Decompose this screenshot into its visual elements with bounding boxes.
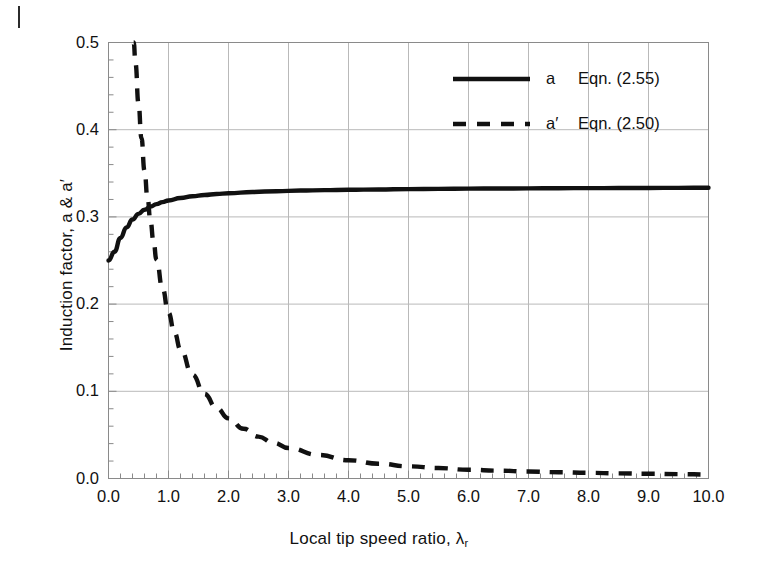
x-tick-label: 3.0 — [259, 487, 319, 506]
x-tick-label: 2.0 — [199, 487, 259, 506]
x-tick-label: 10.0 — [679, 487, 739, 506]
figure-container: 0.01.02.03.04.05.06.07.08.09.010.0 0.00.… — [0, 0, 758, 572]
x-tick-label: 7.0 — [499, 487, 559, 506]
gridlines — [109, 43, 709, 479]
legend-swatches — [453, 79, 530, 124]
y-axis-title-text: Induction factor, a & a′ — [57, 179, 76, 351]
series-a-prime-line — [134, 43, 709, 475]
x-tick-label: 1.0 — [139, 487, 199, 506]
x-axis-title: Local tip speed ratio, λr — [0, 529, 758, 549]
x-tick-label: 0.0 — [79, 487, 139, 506]
y-axis-title: Induction factor, a & a′ — [57, 55, 77, 475]
y-tick-label: 0.5 — [39, 33, 99, 52]
x-tick-label: 9.0 — [619, 487, 679, 506]
legend-item-0-symbol: a — [546, 69, 555, 88]
x-tick-label: 5.0 — [379, 487, 439, 506]
x-axis-title-text: Local tip speed ratio, λ — [290, 529, 465, 548]
legend-item-1-symbol: a′ — [546, 114, 558, 133]
x-tick-label: 6.0 — [439, 487, 499, 506]
x-tick-label: 8.0 — [559, 487, 619, 506]
legend-item-0-equation: Eqn. (2.55) — [578, 69, 660, 88]
x-axis-title-subscript: r — [465, 537, 469, 549]
legend-item-1-equation: Eqn. (2.50) — [578, 114, 660, 133]
x-tick-label: 4.0 — [319, 487, 379, 506]
